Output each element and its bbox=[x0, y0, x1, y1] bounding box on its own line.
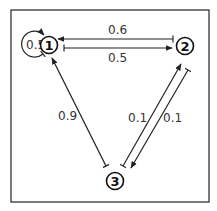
node-3: 3 bbox=[107, 173, 124, 190]
svg-text:2: 2 bbox=[180, 39, 189, 54]
edge-label-1-2: 0.5 bbox=[108, 51, 127, 65]
diagram-canvas: 0.5 0.6 0.5 0.9 0.1 0.1 1 2 3 bbox=[0, 0, 217, 211]
edge-label-3-2: 0.1 bbox=[128, 111, 147, 125]
svg-text:3: 3 bbox=[110, 174, 119, 189]
node-1: 1 bbox=[41, 37, 58, 54]
svg-text:1: 1 bbox=[44, 38, 53, 53]
node-2: 2 bbox=[177, 38, 194, 55]
edge-label-2-3: 0.1 bbox=[163, 111, 182, 125]
edge-label-2-1: 0.6 bbox=[108, 23, 127, 37]
edge-label-3-1: 0.9 bbox=[58, 109, 77, 123]
